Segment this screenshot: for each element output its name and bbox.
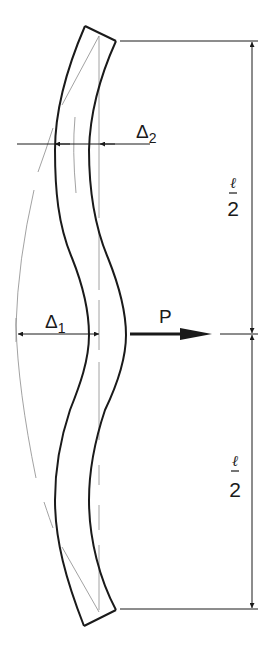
column-right-edge — [89, 41, 126, 610]
first-mode-arc — [44, 502, 53, 528]
load-label: P — [159, 306, 172, 327]
lower-half-numerator: ℓ — [232, 452, 238, 470]
upper-half-label: ℓ 2 — [227, 174, 239, 220]
upper-half-denominator: 2 — [227, 197, 239, 220]
delta2-label: Δ2 — [136, 121, 157, 146]
column — [55, 26, 126, 626]
first-mode-arc — [38, 128, 53, 172]
lower-half-label: ℓ 2 — [229, 452, 241, 501]
load-arrow — [130, 328, 212, 340]
inner-arc-line — [74, 117, 76, 193]
lower-half-denominator: 2 — [229, 478, 241, 501]
delta1-label: Δ1 — [45, 311, 66, 336]
column-deflection-diagram: Δ2 Δ1 P ℓ 2 ℓ 2 — [0, 0, 268, 656]
column-bottom-cap — [84, 610, 116, 626]
column-top-cap — [85, 26, 116, 41]
upper-half-numerator: ℓ — [230, 174, 236, 192]
load-arrow-head — [180, 328, 212, 340]
